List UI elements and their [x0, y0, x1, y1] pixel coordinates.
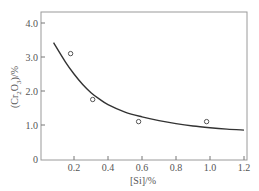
x-tick-label: 0.8: [170, 162, 183, 173]
x-tick-label: 0.4: [102, 162, 115, 173]
y-axis-label: (Cr2O3)/%: [9, 66, 23, 108]
fit-curve: [54, 43, 244, 130]
x-tick-label: 1.2: [238, 162, 251, 173]
y-label-pre: (Cr: [9, 94, 21, 108]
y-tick-label: 3.0: [26, 52, 39, 63]
y-tick-label: 2.0: [26, 86, 39, 97]
y-label-post: )/%: [9, 66, 21, 80]
y-tick-label: 4.0: [26, 18, 39, 29]
data-point: [136, 119, 140, 123]
data-point: [68, 51, 72, 55]
y-label-mid: O: [9, 84, 20, 91]
y-axis: 01.02.03.04.0: [26, 18, 46, 165]
plot-frame: [41, 12, 247, 160]
data-point: [204, 119, 208, 123]
y-tick-label: 0: [33, 154, 38, 165]
y-tick-label: 1.0: [26, 120, 39, 131]
x-tick-label: 1.0: [204, 162, 217, 173]
x-axis-label: [Si]/%: [130, 175, 156, 186]
x-axis: 0.20.40.60.81.01.2: [68, 156, 251, 173]
data-point: [91, 97, 95, 101]
x-tick-label: 0.2: [68, 162, 81, 173]
data-points: [68, 51, 208, 123]
chart: 01.02.03.04.0 0.20.40.60.81.01.2 [Si]/% …: [0, 0, 259, 191]
x-tick-label: 0.6: [136, 162, 149, 173]
